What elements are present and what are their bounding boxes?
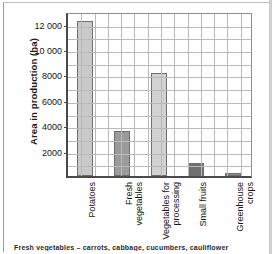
x-axis-tick-label-line: vegetables (134, 182, 144, 252)
y-axis-ticks: 200040006000800010 00012 000 (0, 13, 62, 178)
y-axis-tick-mark (64, 76, 67, 77)
x-axis-tick-label-line: Vegetables for (161, 182, 171, 252)
x-axis-tick-label: Small fruits (198, 182, 208, 252)
screenshot-root: Area in production (ha) 2000400060008000… (0, 0, 272, 254)
y-axis-tick-mark (64, 102, 67, 103)
y-axis-tick-label: 4000 (2, 122, 62, 132)
bar-chart-figure: Area in production (ha) 2000400060008000… (0, 0, 272, 254)
y-axis-tick-mark (64, 26, 67, 27)
x-axis-tick-label: Potatoes (87, 182, 97, 252)
y-axis-tick-label: 8000 (2, 71, 62, 81)
gridline-vertical (188, 14, 189, 176)
gridline-vertical (148, 14, 149, 176)
x-axis-tick-label: Freshvegetables (124, 182, 144, 252)
x-axis-tick-label-line: crops (245, 182, 255, 252)
y-axis-tick-label: 10 000 (2, 46, 62, 56)
gridline-vertical (81, 14, 82, 176)
x-axis-tick-label: Greenhousecrops (235, 182, 255, 252)
x-axis-tick-label: Vegetables forprocessing (161, 182, 181, 252)
gridline-vertical (121, 14, 122, 176)
y-axis-tick-mark (64, 127, 67, 128)
x-axis-tick-label-line: Potatoes (87, 182, 97, 252)
x-axis-tick-label-line: Fresh (124, 182, 134, 252)
gridline-vertical (214, 14, 215, 176)
gridline-vertical (227, 14, 228, 176)
gridline-vertical (108, 14, 109, 176)
plot-area (66, 13, 252, 178)
y-axis-tick-mark (64, 51, 67, 52)
x-axis-tick-label-line: processing (171, 182, 181, 252)
y-axis-tick-label: 2000 (2, 148, 62, 158)
gridline-vertical (241, 14, 242, 176)
gridline-vertical (201, 14, 202, 176)
x-axis-tick-label-line: Greenhouse (235, 182, 245, 252)
x-axis-tick-label-line: Small fruits (198, 182, 208, 252)
y-axis-tick-mark (64, 153, 67, 154)
gridline-vertical (174, 14, 175, 176)
gridline-vertical (134, 14, 135, 176)
y-axis-tick-label: 12 000 (2, 21, 62, 31)
bar (151, 73, 167, 176)
y-axis-tick-label: 6000 (2, 97, 62, 107)
gridline-vertical (161, 14, 162, 176)
gridline-vertical (95, 14, 96, 176)
